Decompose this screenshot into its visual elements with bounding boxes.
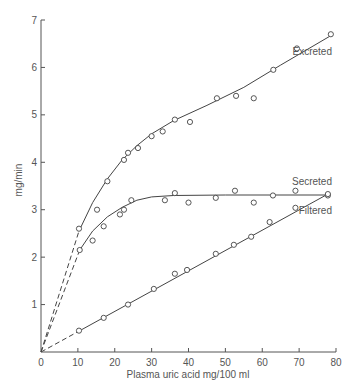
secreted-data-point	[129, 198, 134, 203]
filtered-data-point	[125, 302, 130, 307]
filtered-data-point	[231, 242, 236, 247]
filtered-data-point	[172, 271, 177, 276]
secreted-data-point	[117, 212, 122, 217]
excreted-data-point	[121, 157, 126, 162]
filtered-fit-line	[79, 194, 328, 331]
excreted-series-label: Excreted	[293, 46, 332, 57]
secreted-data-point	[172, 191, 177, 196]
filtered-series-label: Filtered	[299, 205, 332, 216]
excreted-data-point	[328, 32, 333, 37]
y-axis-label: mg/min	[13, 164, 24, 197]
y-tick-label: 5	[31, 109, 37, 120]
secreted-data-point	[101, 224, 106, 229]
secreted-data-point	[270, 193, 275, 198]
y-tick-label: 6	[31, 62, 37, 73]
excreted-data-point	[233, 93, 238, 98]
x-tick-label: 80	[330, 357, 342, 368]
secreted-data-point	[232, 188, 237, 193]
filtered-data-point	[213, 251, 218, 256]
excreted-fit-line	[79, 36, 331, 231]
filtered-data-point	[184, 267, 189, 272]
x-tick-label: 70	[294, 357, 306, 368]
filtered-data-point	[76, 328, 81, 333]
x-tick-label: 30	[146, 357, 158, 368]
excreted-data-point	[271, 67, 276, 72]
x-tick-label: 20	[109, 357, 121, 368]
filtered-data-point	[249, 234, 254, 239]
x-tick-label: 40	[183, 357, 195, 368]
excreted-data-point	[251, 96, 256, 101]
excreted-data-point	[172, 117, 177, 122]
excreted-data-point	[187, 119, 192, 124]
secreted-data-point	[186, 200, 191, 205]
x-tick-label: 0	[38, 357, 44, 368]
excreted-data-point	[105, 179, 110, 184]
chart-canvas: 010203040506070801234567 ExcretedSecrete…	[0, 0, 364, 391]
y-tick-label: 7	[31, 15, 37, 26]
excreted-data-point	[160, 129, 165, 134]
chart: 010203040506070801234567 ExcretedSecrete…	[0, 0, 364, 391]
excreted-data-point	[76, 226, 81, 231]
filtered-data-point	[293, 205, 298, 210]
series-lines	[41, 36, 331, 352]
excreted-data-point	[214, 96, 219, 101]
filtered-data-point	[267, 219, 272, 224]
x-tick-label: 10	[72, 357, 84, 368]
secreted-data-point	[121, 207, 126, 212]
secreted-extrapolation-line	[41, 250, 80, 352]
secreted-data-point	[77, 247, 82, 252]
excreted-data-point	[125, 150, 130, 155]
y-tick-label: 2	[31, 252, 37, 263]
excreted-data-point	[149, 134, 154, 139]
secreted-fit-line	[80, 195, 328, 250]
y-tick-label: 4	[31, 157, 37, 168]
excreted-extrapolation-line	[41, 231, 79, 352]
secreted-data-point	[251, 200, 256, 205]
x-tick-label: 50	[220, 357, 232, 368]
secreted-data-point	[90, 238, 95, 243]
x-axis-label: Plasma uric acid mg/100 ml	[127, 369, 250, 380]
secreted-data-point	[162, 198, 167, 203]
y-tick-label: 3	[31, 204, 37, 215]
x-tick-label: 60	[257, 357, 269, 368]
excreted-data-point	[135, 145, 140, 150]
secreted-data-point	[293, 188, 298, 193]
secreted-data-point	[213, 195, 218, 200]
filtered-data-point	[151, 286, 156, 291]
y-tick-label: 1	[31, 299, 37, 310]
filtered-data-point	[325, 191, 330, 196]
excreted-data-point	[94, 207, 99, 212]
secreted-series-label: Secreted	[292, 176, 332, 187]
filtered-data-point	[101, 315, 106, 320]
